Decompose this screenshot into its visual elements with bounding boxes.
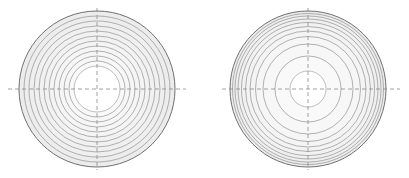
uniform-concentric-rings bbox=[8, 8, 186, 170]
figure-sheet bbox=[0, 0, 409, 178]
figure-canvas bbox=[0, 0, 409, 178]
caption-text: . bbox=[0, 169, 409, 177]
compressed-outer-rings bbox=[222, 8, 400, 170]
